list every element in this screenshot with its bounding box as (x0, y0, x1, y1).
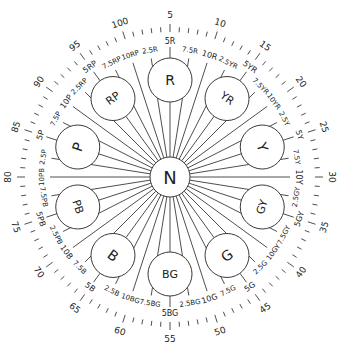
radial-line (94, 72, 100, 81)
tick-mark (188, 321, 189, 326)
tick-mark (43, 255, 47, 258)
tick-mark (312, 149, 317, 150)
munsell-hue-circle: 5101520253035404550556065707580859095100… (0, 0, 340, 345)
hue-label: 5P (35, 129, 47, 141)
hue-label: 2.5PB (48, 224, 64, 246)
radial-line (46, 137, 56, 140)
tick-mark (39, 105, 43, 107)
outer-number-label: 50 (213, 324, 227, 337)
radial-line (240, 72, 246, 81)
tick-mark (215, 315, 217, 323)
tick-mark (54, 269, 58, 272)
hue-label: 5GY (293, 210, 306, 228)
hue-label: 2.5Y (277, 110, 291, 128)
tick-mark (308, 130, 316, 132)
tick-mark (297, 247, 301, 249)
hue-label: 7.5PB (38, 186, 49, 207)
tick-mark (312, 204, 317, 205)
tick-mark (223, 312, 225, 317)
tick-mark (80, 294, 85, 300)
hue-label: 10YR (265, 92, 282, 111)
tick-mark (301, 239, 306, 241)
radial-line (283, 137, 293, 140)
tick-mark (142, 30, 143, 35)
hue-label: 10BG (120, 292, 141, 305)
radial-line (283, 214, 293, 217)
tick-mark (142, 319, 143, 324)
radial-line (46, 214, 56, 217)
tick-mark (276, 276, 280, 279)
hue-label: 2.5R (141, 45, 158, 55)
hue-label: 5PB (34, 210, 47, 227)
principal-hue-label: BG (162, 268, 178, 281)
outer-number-label: 85 (9, 120, 22, 134)
outer-number-label: 40 (294, 264, 309, 279)
outer-number-label: 5 (167, 10, 173, 20)
tick-mark (240, 46, 242, 50)
radial-line (240, 273, 246, 282)
tick-mark (310, 213, 315, 214)
tick-mark (248, 50, 251, 54)
tick-mark (21, 195, 26, 196)
tick-mark (25, 213, 30, 214)
hue-label: 5BG (162, 309, 179, 318)
tick-mark (74, 61, 77, 65)
tick-mark (151, 28, 152, 33)
tick-mark (67, 68, 70, 72)
tick-mark (23, 149, 28, 150)
tick-mark (248, 299, 251, 303)
tick-mark (197, 30, 198, 35)
outer-number-label: 65 (67, 301, 82, 316)
tick-mark (98, 304, 100, 308)
tick-mark (123, 315, 125, 323)
tick-mark (31, 230, 36, 232)
tick-mark (262, 289, 265, 293)
tick-mark (133, 32, 134, 37)
tick-mark (61, 276, 65, 279)
hue-label: 7.5Y (291, 149, 301, 166)
tick-mark (206, 32, 207, 37)
hue-label: 2.5BG (179, 298, 201, 309)
tick-mark (21, 158, 26, 159)
outer-number-label: 10 (213, 16, 227, 29)
hue-label: 10Y (294, 169, 303, 184)
tick-mark (46, 87, 52, 92)
hue-label: 10PB (38, 168, 46, 186)
tick-mark (287, 262, 293, 267)
tick-mark (197, 319, 198, 324)
hue-label: 2.5B (103, 284, 121, 298)
tick-mark (255, 53, 260, 59)
outer-number-label: 45 (258, 301, 273, 316)
hue-label: 7.5R (181, 45, 198, 55)
tick-mark (98, 46, 100, 50)
radial-line (99, 154, 151, 171)
tick-mark (67, 283, 70, 287)
outer-number-label: 25 (318, 120, 331, 134)
hue-label: 7.5RP (101, 55, 123, 71)
hue-label: 10P (58, 93, 74, 111)
hue-label: 5RP (81, 59, 99, 75)
tick-mark (90, 50, 93, 54)
tick-mark (282, 81, 286, 84)
neutral-center-label: N (163, 167, 176, 188)
hue-label: 7.5GY (276, 224, 293, 247)
tick-mark (287, 87, 293, 92)
hue-label: 10RP (121, 49, 141, 62)
radial-line (94, 273, 100, 282)
tick-mark (46, 262, 52, 267)
tick-mark (310, 140, 315, 141)
tick-mark (61, 74, 65, 77)
tick-mark (39, 247, 43, 249)
hue-label: 5B (83, 280, 97, 293)
tick-mark (206, 317, 207, 322)
outer-number-label: 55 (164, 334, 175, 344)
tick-mark (314, 158, 319, 159)
tick-mark (43, 97, 47, 100)
tick-mark (34, 239, 39, 241)
tick-mark (115, 38, 117, 43)
tick-mark (262, 61, 265, 65)
tick-mark (282, 269, 286, 272)
tick-mark (223, 38, 225, 43)
tick-mark (115, 312, 117, 317)
hue-label: 10G (200, 292, 218, 306)
